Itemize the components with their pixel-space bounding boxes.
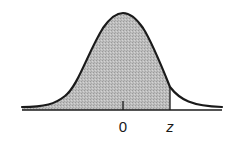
shaded-area [22, 13, 170, 110]
mean-label: 0 [119, 118, 127, 135]
normal-curve-diagram: 0 z [0, 0, 235, 141]
z-label: z [165, 118, 174, 135]
